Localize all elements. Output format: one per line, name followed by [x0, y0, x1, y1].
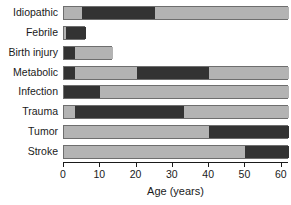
x-axis-tick	[136, 162, 137, 167]
bar-segment-light	[64, 126, 209, 138]
bar-row	[63, 105, 288, 119]
bar-row	[63, 85, 288, 99]
bar-segment-light	[75, 47, 113, 59]
x-axis-tick	[244, 162, 245, 167]
x-axis-line	[63, 162, 288, 163]
plot-area	[63, 3, 288, 162]
x-axis-tick	[208, 162, 209, 167]
bar-row	[63, 46, 288, 60]
bar-segment-dark	[64, 86, 100, 98]
category-label: Metabolic	[13, 67, 58, 78]
bar-segment-dark	[64, 47, 75, 59]
x-axis-title: Age (years)	[63, 186, 288, 197]
bar-segment-dark	[82, 7, 155, 19]
x-axis-tick	[99, 162, 100, 167]
category-label: Stroke	[28, 146, 58, 157]
x-axis-tick-label: 40	[202, 169, 214, 180]
stacked-bar-chart: IdiopathicFebrileBirth injuryMetabolicIn…	[0, 0, 291, 205]
stacked-bar	[63, 26, 85, 40]
x-axis-tick	[63, 162, 64, 167]
x-axis-tick-label: 0	[60, 169, 66, 180]
stacked-bar	[63, 85, 288, 99]
x-axis-tick	[172, 162, 173, 167]
x-axis-tick-label: 10	[93, 169, 105, 180]
bar-segment-light	[100, 86, 289, 98]
category-label: Febrile	[26, 27, 58, 38]
bar-segment-dark	[66, 27, 86, 39]
bar-segment-dark	[209, 126, 289, 138]
stacked-bar	[63, 145, 288, 159]
bar-segment-light	[64, 146, 245, 158]
x-axis-tick-label: 30	[166, 169, 178, 180]
bar-segment-light	[209, 67, 289, 79]
category-axis-labels: IdiopathicFebrileBirth injuryMetabolicIn…	[0, 0, 61, 160]
stacked-bar	[63, 66, 288, 80]
bar-row	[63, 145, 288, 159]
bar-row	[63, 26, 288, 40]
bar-segment-dark	[75, 106, 184, 118]
stacked-bar	[63, 6, 288, 20]
bar-segment-light	[64, 106, 75, 118]
bar-segment-light	[64, 7, 82, 19]
category-label: Birth injury	[8, 47, 58, 58]
bar-segment-dark	[245, 146, 289, 158]
x-axis-tick-label: 20	[130, 169, 142, 180]
bar-row	[63, 125, 288, 139]
bar-row	[63, 66, 288, 80]
stacked-bar	[63, 125, 288, 139]
stacked-bar	[63, 105, 288, 119]
bar-row	[63, 6, 288, 20]
bar-segment-dark	[64, 67, 75, 79]
bar-segment-light	[155, 7, 289, 19]
x-axis-tick-label: 50	[239, 169, 251, 180]
bar-segment-light	[75, 67, 137, 79]
x-axis: 0102030405060	[63, 162, 288, 168]
x-axis-tick-label: 60	[275, 169, 287, 180]
category-label: Tumor	[28, 126, 58, 137]
category-label: Trauma	[22, 106, 58, 117]
stacked-bar	[63, 46, 112, 60]
category-label: Idiopathic	[13, 7, 58, 18]
x-axis-tick	[281, 162, 282, 167]
bar-segment-light	[184, 106, 289, 118]
bar-segment-dark	[137, 67, 210, 79]
category-label: Infection	[18, 86, 58, 97]
